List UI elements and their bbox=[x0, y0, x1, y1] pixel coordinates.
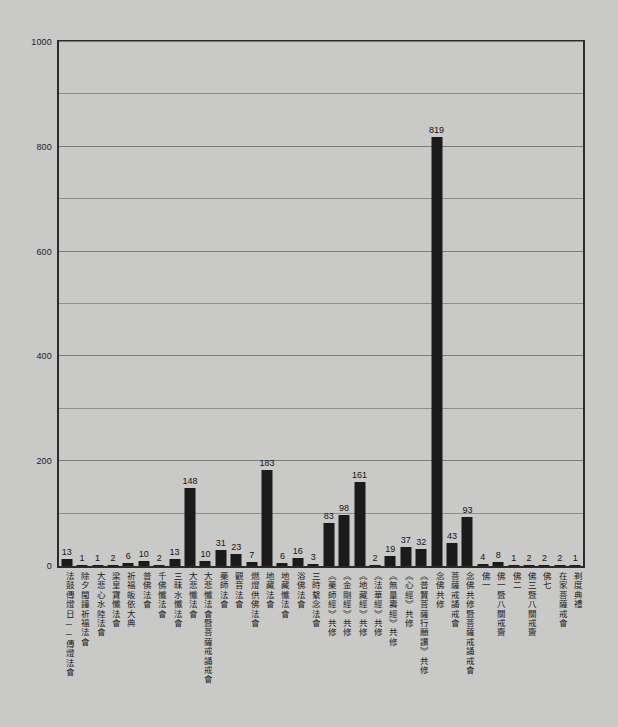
bar bbox=[477, 564, 488, 566]
bar-slot: 2 bbox=[537, 42, 552, 566]
bar bbox=[354, 482, 365, 566]
bar-slot: 98 bbox=[336, 42, 351, 566]
bar bbox=[215, 550, 226, 566]
x-axis-label: 念佛共修 bbox=[431, 572, 443, 610]
x-axis-label: 大悲心水陸法會 bbox=[92, 572, 104, 638]
bar-slot: 23 bbox=[229, 42, 244, 566]
bar-value-label: 4 bbox=[480, 552, 485, 562]
y-tick-label: 400 bbox=[0, 351, 52, 361]
bar-slot: 183 bbox=[259, 42, 274, 566]
bar bbox=[184, 488, 195, 566]
bar bbox=[431, 137, 442, 566]
bar-chart: 02004006008001000 1311261021314810312371… bbox=[0, 0, 618, 727]
x-axis-label: 普佛法會 bbox=[138, 572, 150, 610]
bar-slot: 2 bbox=[151, 42, 166, 566]
bar-slot: 1 bbox=[506, 42, 521, 566]
x-axis-label: 《地藏經》共修 bbox=[354, 572, 366, 638]
bar-slot: 16 bbox=[290, 42, 305, 566]
bar bbox=[385, 556, 396, 566]
bar-value-label: 3 bbox=[311, 552, 316, 562]
x-axis-label: 佛三暨八關戒齋 bbox=[523, 572, 535, 638]
bar-value-label: 37 bbox=[401, 535, 411, 545]
x-axis-label: 菩薩戒誦戒會 bbox=[446, 572, 458, 628]
x-axis-label: 念佛共修暨菩薩戒誦戒會 bbox=[461, 572, 473, 675]
x-axis-label: 《普賢菩薩行願讚》共修 bbox=[415, 572, 427, 675]
bar bbox=[154, 565, 165, 567]
bar-slot: 2 bbox=[521, 42, 536, 566]
bar bbox=[462, 517, 473, 566]
bar-slot: 148 bbox=[182, 42, 197, 566]
bar-value-label: 2 bbox=[527, 553, 532, 563]
x-axis-label: 藥師法會 bbox=[215, 572, 227, 610]
bar-slot: 2 bbox=[105, 42, 120, 566]
x-axis-label: 祈福皈依大典 bbox=[122, 572, 134, 628]
x-axis-label: 三昧水懺法會 bbox=[169, 572, 181, 628]
bar-slot: 32 bbox=[413, 42, 428, 566]
bar-value-label: 1 bbox=[573, 553, 578, 563]
bar-slot: 13 bbox=[59, 42, 74, 566]
x-axis-label: 千佛懺法會 bbox=[153, 572, 165, 619]
bar-value-label: 148 bbox=[182, 476, 197, 486]
bar-slot: 7 bbox=[244, 42, 259, 566]
bar bbox=[539, 565, 550, 567]
bar bbox=[493, 562, 504, 566]
x-axis-labels: 法鼓傳燈日──傳燈法會除夕閩鐘祈福法會大悲心水陸法會梁皇寶懺法會祈福皈依大典普佛… bbox=[59, 572, 583, 722]
bar-value-label: 2 bbox=[557, 553, 562, 563]
bar-value-label: 1 bbox=[80, 553, 85, 563]
x-axis-label: 法鼓傳燈日──傳燈法會 bbox=[61, 572, 73, 677]
bar bbox=[92, 565, 103, 567]
bar-value-label: 43 bbox=[447, 531, 457, 541]
y-tick-label: 800 bbox=[0, 142, 52, 152]
bar-value-label: 8 bbox=[496, 550, 501, 560]
x-axis-label: 《藥師經》共修 bbox=[323, 572, 335, 638]
bar-value-label: 7 bbox=[249, 550, 254, 560]
bar-slot: 19 bbox=[383, 42, 398, 566]
bar-slot: 6 bbox=[121, 42, 136, 566]
bar bbox=[570, 565, 581, 567]
bar-slot: 2 bbox=[367, 42, 382, 566]
bar-value-label: 2 bbox=[372, 553, 377, 563]
bar-value-label: 10 bbox=[200, 549, 210, 559]
bar-value-label: 32 bbox=[416, 537, 426, 547]
bar-value-label: 1 bbox=[95, 553, 100, 563]
bar-slot: 819 bbox=[429, 42, 444, 566]
x-axis-label: 《無量壽經》共修 bbox=[384, 572, 396, 647]
bar bbox=[508, 565, 519, 567]
bar bbox=[231, 554, 242, 566]
bar bbox=[416, 549, 427, 566]
bar-value-label: 13 bbox=[62, 547, 72, 557]
bar bbox=[200, 561, 211, 566]
bar bbox=[339, 515, 350, 566]
bar-slot: 93 bbox=[460, 42, 475, 566]
bar bbox=[446, 543, 457, 566]
y-tick-label: 600 bbox=[0, 247, 52, 257]
bar-value-label: 31 bbox=[216, 538, 226, 548]
y-tick-label: 200 bbox=[0, 456, 52, 466]
bar bbox=[277, 563, 288, 566]
x-axis-label: 佛一暨八關戒齋 bbox=[492, 572, 504, 638]
bar-slot: 2 bbox=[552, 42, 567, 566]
bar-value-label: 2 bbox=[542, 553, 547, 563]
bar bbox=[308, 564, 319, 566]
x-axis-label: 《法華經》共修 bbox=[369, 572, 381, 638]
bar-slot: 43 bbox=[444, 42, 459, 566]
bar-series: 1311261021314810312371836163839816121937… bbox=[59, 42, 583, 566]
bar-slot: 1 bbox=[90, 42, 105, 566]
bar bbox=[138, 561, 149, 566]
bar-slot: 3 bbox=[306, 42, 321, 566]
bar bbox=[169, 559, 180, 566]
x-axis-label: 佛一 bbox=[477, 572, 489, 591]
bar-slot: 13 bbox=[167, 42, 182, 566]
bar-value-label: 83 bbox=[324, 511, 334, 521]
bar bbox=[262, 470, 273, 566]
bar-value-label: 1 bbox=[511, 553, 516, 563]
bar-value-label: 2 bbox=[110, 553, 115, 563]
x-axis-label: 燃燈供佛法會 bbox=[246, 572, 258, 628]
x-axis-label: 剃度典禮 bbox=[569, 572, 581, 610]
bar-value-label: 19 bbox=[385, 544, 395, 554]
bar bbox=[524, 565, 535, 567]
bar-slot: 31 bbox=[213, 42, 228, 566]
x-axis-label: 佛七 bbox=[538, 572, 550, 591]
bar-value-label: 6 bbox=[126, 551, 131, 561]
bar-value-label: 819 bbox=[429, 125, 444, 135]
